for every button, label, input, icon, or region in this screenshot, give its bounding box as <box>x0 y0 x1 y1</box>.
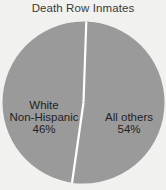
slice-label-line2: Non-Hispanic <box>2 111 86 123</box>
slice-value-all-others: 54% <box>94 123 164 135</box>
pie-graphic: White Non-Hispanic 46% All others 54% <box>2 21 165 184</box>
slice-label-line1: White <box>2 99 86 111</box>
pie-chart: Death Row Inmates White Non-Hispanic 46%… <box>0 0 166 190</box>
chart-title: Death Row Inmates <box>0 2 166 15</box>
slice-label-white-non-hispanic: White Non-Hispanic 46% <box>2 99 86 135</box>
slice-value-white-non-hispanic: 46% <box>2 123 86 135</box>
slice-label-all-others: All others 54% <box>94 111 164 135</box>
slice-label-line1: All others <box>94 111 164 123</box>
